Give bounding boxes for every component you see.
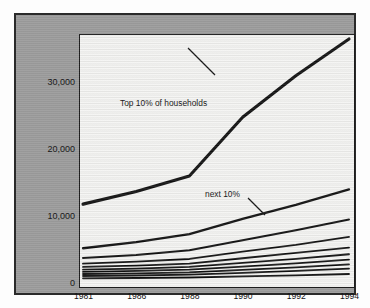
chart-figure: Household Income baht/month, by decile S… xyxy=(0,0,370,308)
x-tick-label: 1990 xyxy=(234,291,253,301)
annotation-top-decile: Top 10% of households xyxy=(120,98,207,108)
annotation-next-decile: next 10% xyxy=(205,189,240,199)
x-tick-label: 1994 xyxy=(340,291,359,301)
x-tick-label: 1992 xyxy=(287,291,306,301)
plot-area: Top 10% of householdsnext 10% xyxy=(79,34,355,288)
y-tick-label: 30,000 xyxy=(47,77,75,87)
x-tick-label: 1988 xyxy=(180,291,199,301)
leader-line-top-decile xyxy=(188,48,215,75)
x-tick-label: 1986 xyxy=(127,291,146,301)
y-tick-label: 20,000 xyxy=(47,144,75,154)
y-tick-label: 0 xyxy=(70,278,75,288)
x-tick-label: 1981 xyxy=(74,291,93,301)
annotation-leaders xyxy=(80,35,353,286)
leader-line-next-decile xyxy=(248,198,265,215)
chart-panel: Household Income baht/month, by decile S… xyxy=(14,13,356,295)
x-axis-labels: 198119861988199019921994 xyxy=(79,290,355,306)
y-tick-label: 10,000 xyxy=(47,211,75,221)
y-axis-labels: 010,00020,00030,000 xyxy=(30,34,75,288)
